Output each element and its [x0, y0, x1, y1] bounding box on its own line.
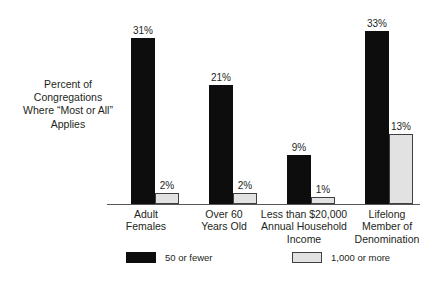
bar-value-label: 9%: [276, 142, 322, 153]
bar-1000-or-more[interactable]: [155, 193, 179, 204]
legend-swatch-icon: [292, 252, 322, 263]
bar-value-label: 1%: [300, 184, 346, 195]
bar-group-adult-females: 31% 2%: [107, 18, 185, 204]
legend-entry-1000-or-more[interactable]: 1,000 or more: [292, 252, 390, 263]
legend-label: 50 or fewer: [165, 252, 213, 263]
category-label-less-than-20000-income: Less than $20,000 Annual Household Incom…: [259, 208, 349, 245]
y-axis-caption: Percent of Congregations Where “Most or …: [14, 78, 122, 131]
bar-value-label: 33%: [354, 18, 400, 29]
category-label-adult-females: Adult Females: [107, 208, 185, 233]
bar-1000-or-more[interactable]: [389, 134, 413, 204]
bar-group-lifelong-member: 33% 13%: [341, 18, 419, 204]
bar-value-label: 2%: [222, 180, 268, 191]
bar-1000-or-more[interactable]: [233, 193, 257, 204]
category-label-lifelong-member: Lifelong Member of Denomination: [347, 208, 427, 245]
bar-50-or-fewer[interactable]: [287, 155, 311, 204]
bar-value-label: 13%: [378, 121, 424, 132]
bar-value-label: 21%: [198, 72, 244, 83]
bar-value-label: 2%: [144, 180, 190, 191]
category-label-over-60-years-old: Over 60 Years Old: [185, 208, 263, 233]
legend: 50 or fewer 1,000 or more: [107, 252, 420, 268]
bar-group-less-than-20000-income: 9% 1%: [263, 18, 341, 204]
bar-1000-or-more[interactable]: [311, 197, 335, 204]
bar-group-over-60-years-old: 21% 2%: [185, 18, 263, 204]
legend-entry-50-or-fewer[interactable]: 50 or fewer: [126, 252, 213, 263]
bar-50-or-fewer[interactable]: [365, 31, 389, 204]
x-axis-baseline: [107, 204, 420, 205]
bar-chart: Percent of Congregations Where “Most or …: [0, 0, 432, 284]
legend-swatch-icon: [126, 252, 156, 263]
plot-area: 31% 2% 21% 2% 9%: [107, 18, 420, 205]
bar-value-label: 31%: [120, 25, 166, 36]
legend-label: 1,000 or more: [331, 252, 390, 263]
